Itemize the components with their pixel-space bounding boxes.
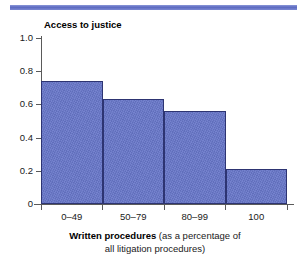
x-tick-mark	[102, 204, 103, 210]
bar-100[interactable]	[226, 169, 288, 204]
x-axis-title-rest: (as a percentage of	[156, 230, 241, 241]
bar-cell	[41, 38, 103, 204]
y-axis-tick-label: 0.2	[0, 166, 33, 176]
x-tick-mark	[225, 204, 226, 210]
bar-cell	[164, 38, 226, 204]
x-axis-title-strong: Written procedures	[69, 230, 156, 241]
x-axis-tick-labels: 0–49 50–79 80–99 100	[41, 211, 287, 223]
x-tick-mark	[164, 204, 165, 210]
bar-series	[41, 38, 287, 204]
bar-cell	[103, 38, 165, 204]
y-axis-tick-label: 0.6	[0, 99, 33, 109]
bar-80-99[interactable]	[164, 111, 226, 204]
chart-title: Access to justice	[44, 19, 122, 30]
x-axis-tick-label: 0–49	[41, 211, 103, 223]
y-axis-tick-label: 0.4	[0, 133, 33, 143]
decorative-top-rule	[10, 5, 297, 10]
figure: Access to justice 1.0 0.8 0.6 0.4 0.2 0 …	[0, 0, 305, 261]
bar-cell	[226, 38, 288, 204]
x-tick-mark	[41, 204, 42, 210]
y-axis-tick-label: 0	[0, 199, 33, 209]
y-axis-tick-label: 0.8	[0, 66, 33, 76]
x-axis-title-line2: all litigation procedures)	[105, 243, 205, 254]
x-axis-title: Written procedures (as a percentage of a…	[20, 229, 290, 255]
x-tick-mark	[287, 204, 288, 210]
x-axis-tick-label: 50–79	[103, 211, 165, 223]
x-axis-tick-label: 100	[226, 211, 288, 223]
y-axis-tick-label: 1.0	[0, 33, 33, 43]
bar-50-79[interactable]	[103, 99, 165, 204]
x-axis-tick-label: 80–99	[164, 211, 226, 223]
bar-0-49[interactable]	[41, 81, 103, 204]
